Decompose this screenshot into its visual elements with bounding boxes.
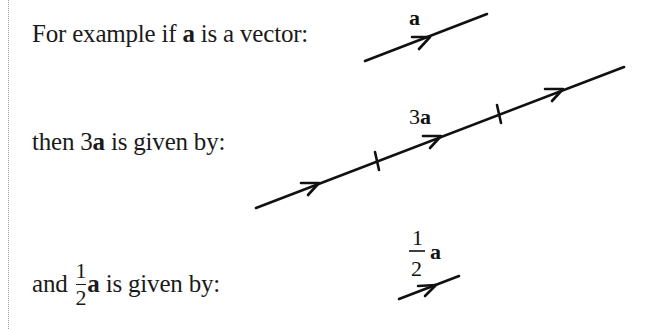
vector-a-label: a — [409, 5, 420, 30]
vector-half-a-numerator: 1 — [412, 225, 423, 250]
vector-3a-label: 3a — [409, 104, 431, 129]
vector-half-a-line — [399, 276, 459, 299]
vector-a-diagram — [365, 14, 487, 61]
vector-diagrams: a 3a 1 2 a — [0, 0, 654, 329]
vector-half-a-diagram — [399, 276, 459, 299]
vector-3a-diagram — [256, 67, 624, 208]
vector-half-a-vector: a — [430, 239, 441, 264]
vector-3a-label-coef: 3 — [409, 104, 420, 129]
vector-half-a-label: 1 2 a — [409, 225, 441, 281]
vector-half-a-denominator: 2 — [411, 256, 422, 281]
vector-3a-label-vector: a — [420, 104, 431, 129]
